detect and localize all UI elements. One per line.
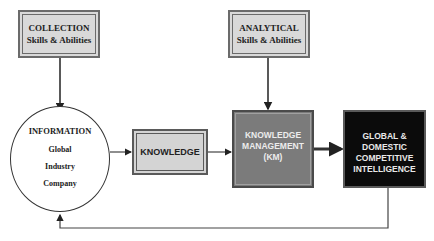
analytical-title: ANALYTICAL <box>239 22 299 34</box>
information-title: INFORMATION <box>29 126 92 136</box>
information-item-global: Global <box>48 145 71 154</box>
gci-line-1: GLOBAL & <box>362 131 406 142</box>
collection-skills-box: COLLECTION Skills & Abilities <box>18 10 100 58</box>
knowledge-box: KNOWLEDGE <box>132 129 208 175</box>
information-item-industry: Industry <box>45 162 75 171</box>
collection-subtitle: Skills & Abilities <box>27 34 92 46</box>
gci-line-2: DOMESTIC <box>362 142 407 153</box>
km-line-3: (KM) <box>264 152 283 163</box>
diagram-canvas: COLLECTION Skills & Abilities ANALYTICAL… <box>0 0 434 241</box>
knowledge-title: KNOWLEDGE <box>140 147 200 157</box>
collection-title: COLLECTION <box>28 22 89 34</box>
gci-line-3: COMPETITIVE <box>356 153 414 164</box>
km-line-1: KNOWLEDGE <box>245 130 301 141</box>
gci-line-4: INTELLIGENCE <box>353 164 415 175</box>
analytical-subtitle: Skills & Abilities <box>237 34 302 46</box>
knowledge-management-box: KNOWLEDGE MANAGEMENT (KM) <box>232 110 314 188</box>
competitive-intelligence-box: GLOBAL & DOMESTIC COMPETITIVE INTELLIGEN… <box>343 110 426 188</box>
arrow-feedback-loop <box>60 188 388 228</box>
analytical-skills-box: ANALYTICAL Skills & Abilities <box>228 10 310 58</box>
information-item-company: Company <box>43 179 76 188</box>
km-line-2: MANAGEMENT <box>242 141 304 152</box>
information-circle: INFORMATION Global Industry Company <box>10 106 110 212</box>
